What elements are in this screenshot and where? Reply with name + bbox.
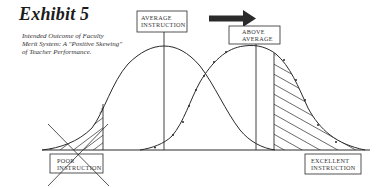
above-average-label: ABOVE AVERAGE [242,28,273,42]
intended-distribution-curve [140,45,365,150]
shift-right-arrow-icon [209,10,256,27]
average-instruction-label: AVERAGE INSTRUCTION [141,14,186,28]
current-distribution-curve [42,46,275,150]
poor-instruction-label: POOR INSTRUCTION [57,157,102,171]
excellent-instruction-label: EXCELLENT INSTRUCTION [311,157,356,171]
